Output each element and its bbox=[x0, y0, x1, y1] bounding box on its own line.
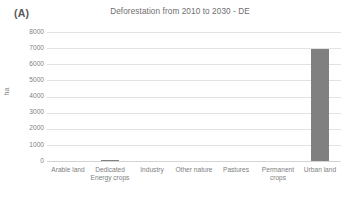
y-tick-label: 1000 bbox=[10, 142, 44, 149]
chart-figure: (A) Deforestation from 2010 to 2030 - DE… bbox=[0, 0, 349, 211]
y-tick-label: 6000 bbox=[10, 61, 44, 68]
panel-label: (A) bbox=[14, 7, 29, 19]
bar bbox=[311, 49, 329, 161]
gridline bbox=[47, 161, 341, 162]
plot-area bbox=[47, 32, 341, 161]
y-tick-label: 4000 bbox=[10, 93, 44, 100]
y-axis-tick-labels: 800070006000500040003000200010000 bbox=[8, 32, 44, 161]
x-tick-label: Pastures bbox=[215, 166, 257, 210]
gridline bbox=[47, 113, 341, 114]
gridline bbox=[47, 80, 341, 81]
x-tick-label: Other nature bbox=[173, 166, 215, 210]
gridline bbox=[47, 48, 341, 49]
y-tick-label: 2000 bbox=[10, 125, 44, 132]
y-tick-label: 8000 bbox=[10, 29, 44, 36]
y-tick-label: 5000 bbox=[10, 77, 44, 84]
gridline bbox=[47, 145, 341, 146]
x-tick-label: Permanent crops bbox=[257, 166, 299, 210]
y-tick-label: 0 bbox=[10, 158, 44, 165]
x-tick-label: Urban land bbox=[299, 166, 341, 210]
y-tick-label: 3000 bbox=[10, 109, 44, 116]
gridline bbox=[47, 97, 341, 98]
x-axis-category-labels: Arable landDedicated Energy cropsIndustr… bbox=[47, 166, 341, 210]
x-tick-label: Arable land bbox=[47, 166, 89, 210]
gridline bbox=[47, 64, 341, 65]
chart-title: Deforestation from 2010 to 2030 - DE bbox=[60, 7, 300, 16]
gridline bbox=[47, 32, 341, 33]
bar bbox=[101, 160, 119, 161]
y-tick-label: 7000 bbox=[10, 45, 44, 52]
gridline bbox=[47, 129, 341, 130]
x-tick-label: Industry bbox=[131, 166, 173, 210]
x-tick-label: Dedicated Energy crops bbox=[89, 166, 131, 210]
